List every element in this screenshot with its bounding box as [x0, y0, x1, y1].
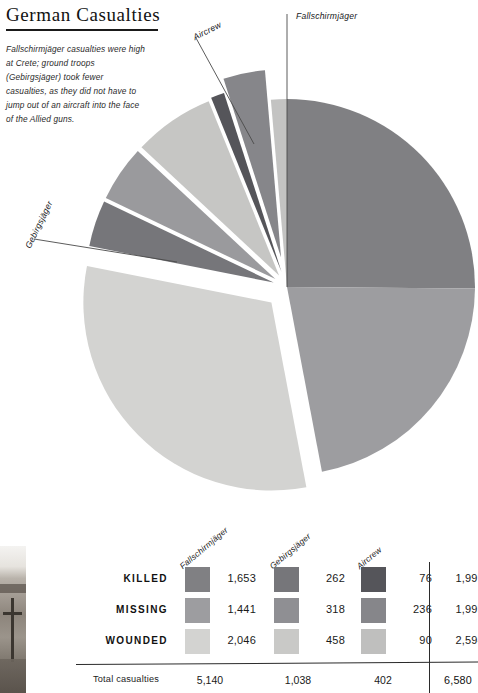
photo-horizon-band [0, 584, 26, 593]
pie-slice [287, 287, 475, 472]
swatch-gebirgsjaeger-wounded [274, 629, 299, 654]
total-fallschirmjaeger: 5,140 [186, 674, 234, 686]
total-gebirgsjaeger: 1,038 [274, 674, 322, 686]
row-label-missing: MISSING [78, 604, 168, 615]
swatch-gebirgsjaeger-killed [274, 567, 299, 592]
cell-fallschirmjaeger-missing: 1,441 [212, 603, 256, 615]
grand-total-value: 6,580 [429, 674, 478, 686]
cell-gebirgsjaeger-missing: 318 [301, 603, 345, 615]
row-label-wounded: WOUNDED [78, 635, 168, 646]
pie-slice [287, 99, 475, 288]
pie-label-fallschirmjaeger: Fallschirmjäger [296, 11, 357, 21]
pie-slice-group [83, 70, 475, 490]
swatch-aircrew-wounded [361, 629, 386, 654]
row-label-killed: KILLED [78, 573, 168, 584]
total-aircrew: 402 [359, 674, 407, 686]
table-row: KILLED 1,653 262 76 1,991 [78, 565, 478, 596]
swatch-aircrew-killed [361, 567, 386, 592]
swatch-aircrew-missing [361, 598, 386, 623]
swatch-fallschirmjaeger-missing [185, 598, 210, 623]
photo-ground [0, 659, 26, 693]
cell-total-missing: 1,995 [440, 603, 478, 615]
cell-total-wounded: 2,594 [440, 634, 478, 646]
pie-chart-svg [0, 0, 478, 530]
total-label: Total casualties [78, 674, 174, 684]
pie-chart: Fallschirmjäger Aircrew Gebirgsjäger [0, 0, 478, 530]
cell-gebirgsjaeger-killed: 262 [301, 572, 345, 584]
table-total-row: Total casualties 5,140 1,038 402 6,580 [78, 672, 478, 692]
swatch-fallschirmjaeger-wounded [185, 629, 210, 654]
casualties-table: Fallschirmjäger Gebirgsjäger Aircrew KIL… [78, 524, 478, 693]
photo-grave-marker [0, 546, 26, 693]
swatch-fallschirmjaeger-killed [185, 567, 210, 592]
photo-cross-horizontal [3, 612, 22, 615]
infographic-page: German Casualties Fallschirmjäger casual… [0, 0, 478, 693]
table-vertical-rule [429, 562, 430, 666]
table-row: WOUNDED 2,046 458 90 2,594 [78, 627, 478, 658]
table-horizontal-rule [76, 662, 478, 665]
table-row: MISSING 1,441 318 236 1,995 [78, 596, 478, 627]
swatch-gebirgsjaeger-missing [274, 598, 299, 623]
cell-aircrew-missing: 236 [388, 603, 432, 615]
cell-fallschirmjaeger-wounded: 2,046 [212, 634, 256, 646]
pie-slice [83, 266, 306, 491]
cell-gebirgsjaeger-wounded: 458 [301, 634, 345, 646]
cell-fallschirmjaeger-killed: 1,653 [212, 572, 256, 584]
cell-aircrew-killed: 76 [388, 572, 432, 584]
cell-total-killed: 1,991 [440, 572, 478, 584]
cell-aircrew-wounded: 90 [388, 634, 432, 646]
photo-cross-vertical [11, 598, 14, 662]
